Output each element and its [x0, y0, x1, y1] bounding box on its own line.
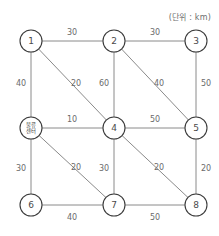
- edge-weight-n5-n8: 20: [201, 164, 211, 173]
- edge-weight-n1-hub: 40: [16, 79, 26, 88]
- node-n7: 7: [103, 194, 125, 216]
- edge-weight-n2-n4: 60: [99, 79, 109, 88]
- node-n4: 4: [103, 117, 125, 139]
- network-graph: 123물류센터45678 303010504050406050303020204…: [0, 0, 219, 236]
- node-hub: 물류센터: [20, 117, 42, 139]
- edge-weight-n4-n5: 50: [150, 115, 160, 124]
- node-n8: 8: [185, 194, 207, 216]
- node-n6: 6: [20, 194, 42, 216]
- node-n5: 5: [185, 117, 207, 139]
- edge-weight-n7-n8: 50: [150, 213, 160, 222]
- node-n2: 2: [103, 30, 125, 52]
- diagram-canvas: (단위 : km) 123물류센터45678 30301050405040605…: [0, 0, 219, 236]
- node-label-n3: 3: [193, 36, 199, 46]
- node-n3: 3: [185, 30, 207, 52]
- node-label-n7: 7: [111, 200, 117, 210]
- edge-weight-n1-n4: 20: [71, 79, 81, 88]
- edge-weight-hub-n6: 30: [16, 164, 26, 173]
- edge-weight-hub-n4: 10: [67, 115, 77, 124]
- edge-weight-n6-n7: 40: [67, 213, 77, 222]
- edge-weight-n2-n5: 40: [154, 79, 164, 88]
- edge-weight-n3-n5: 50: [201, 79, 211, 88]
- edge-weight-n1-n2: 30: [67, 28, 77, 37]
- node-label-n6: 6: [28, 200, 34, 210]
- edge-weight-hub-n7: 20: [71, 163, 81, 172]
- node-label-n1: 1: [28, 36, 34, 46]
- edge-weight-n2-n3: 30: [150, 28, 160, 37]
- node-label-n5: 5: [193, 123, 199, 133]
- node-label-n4: 4: [111, 123, 117, 133]
- node-label-n2: 2: [111, 36, 117, 46]
- edge-weight-n4-n7: 30: [99, 164, 109, 173]
- node-label-hub-line2: 센터: [26, 127, 36, 135]
- edge-weight-n4-n8: 20: [154, 163, 164, 172]
- node-n1: 1: [20, 30, 42, 52]
- node-label-n8: 8: [193, 200, 199, 210]
